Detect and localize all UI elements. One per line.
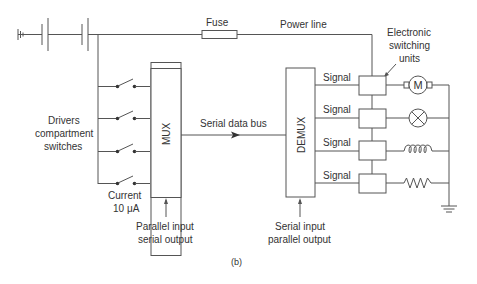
switching-unit-2 — [359, 109, 386, 128]
drivers-label-1: Drivers — [48, 115, 80, 126]
current-label-1: Current — [108, 190, 142, 201]
motor-icon: M — [386, 76, 449, 94]
power-line-label: Power line — [280, 19, 327, 30]
mux-demux-diagram: Fuse Power line Electronic switching uni… — [0, 0, 477, 284]
signal-label-4: Signal — [323, 170, 351, 181]
drivers-label-2: compartment — [35, 128, 94, 139]
fuse-icon — [202, 31, 237, 39]
signal-label-1: Signal — [323, 72, 351, 83]
figure-caption: (b) — [231, 257, 242, 267]
fuse-label: Fuse — [206, 17, 229, 28]
battery-icon — [18, 18, 88, 51]
switching-unit-1 — [359, 76, 386, 95]
switching-unit-4 — [359, 174, 386, 193]
esu-label-3: units — [399, 53, 420, 64]
inductor-icon — [386, 145, 449, 153]
mux-note-2: serial output — [138, 234, 193, 245]
ground-icon — [441, 206, 457, 212]
switch-4 — [98, 176, 150, 185]
lamp-icon — [386, 109, 449, 127]
esu-label-1: Electronic — [387, 27, 431, 38]
signal-label-2: Signal — [323, 104, 351, 115]
switch-2 — [98, 111, 150, 120]
switch-3 — [98, 144, 150, 153]
esu-label-2: switching — [389, 40, 430, 51]
switching-unit-3 — [359, 141, 386, 160]
signal-label-3: Signal — [323, 137, 351, 148]
current-label-2: 10 μA — [113, 203, 140, 214]
switch-1 — [98, 79, 150, 88]
drivers-label-3: switches — [44, 141, 82, 152]
serial-bus-label: Serial data bus — [200, 118, 267, 129]
motor-label: M — [414, 79, 423, 91]
demux-note-2: parallel output — [268, 234, 331, 245]
mux-label: MUX — [161, 122, 172, 145]
demux-note-1: Serial input — [275, 221, 325, 232]
demux-label: DEMUX — [296, 117, 307, 153]
resistor-icon — [386, 178, 449, 188]
mux-note-1: Parallel input — [136, 221, 194, 232]
